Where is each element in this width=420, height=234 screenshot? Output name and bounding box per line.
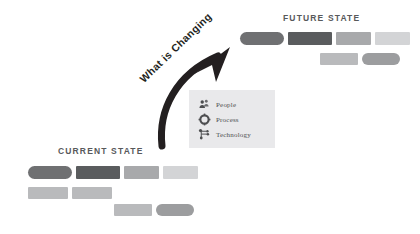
current-state-bar-r0-c2 (124, 166, 159, 179)
current-state-bar-r0-c1 (76, 166, 120, 179)
future-state-bar-r0-c1 (288, 32, 332, 45)
current-state-bar-r2-c0 (114, 204, 152, 216)
people-icon (197, 98, 211, 111)
legend-box: People Process (189, 90, 275, 148)
legend-label-people: People (216, 101, 236, 109)
current-state-bar-r1-c1 (72, 187, 112, 199)
legend-item-technology: Technology (197, 128, 251, 141)
legend-item-process: Process (197, 113, 239, 126)
future-state-bar-r0-c2 (336, 32, 371, 45)
current-state-title: CURRENT STATE (58, 146, 143, 156)
current-state-bar-r0-c0 (28, 166, 72, 179)
diagram-canvas: FUTURE STATE CURRENT STATE What is Chang… (0, 0, 420, 234)
legend-label-process: Process (216, 116, 239, 124)
future-state-bar-r1-c0 (320, 53, 358, 65)
legend-item-people: People (197, 98, 236, 111)
technology-icon (197, 128, 211, 141)
current-state-bar-r1-c0 (28, 187, 68, 199)
future-state-bar-r1-c1 (362, 53, 400, 65)
legend-label-technology: Technology (216, 131, 251, 139)
future-state-title: FUTURE STATE (283, 13, 360, 23)
current-state-bar-r0-c3 (163, 166, 198, 179)
current-state-bar-r2-c1 (156, 204, 194, 216)
process-icon (197, 113, 211, 126)
future-state-bar-r0-c3 (375, 32, 410, 45)
